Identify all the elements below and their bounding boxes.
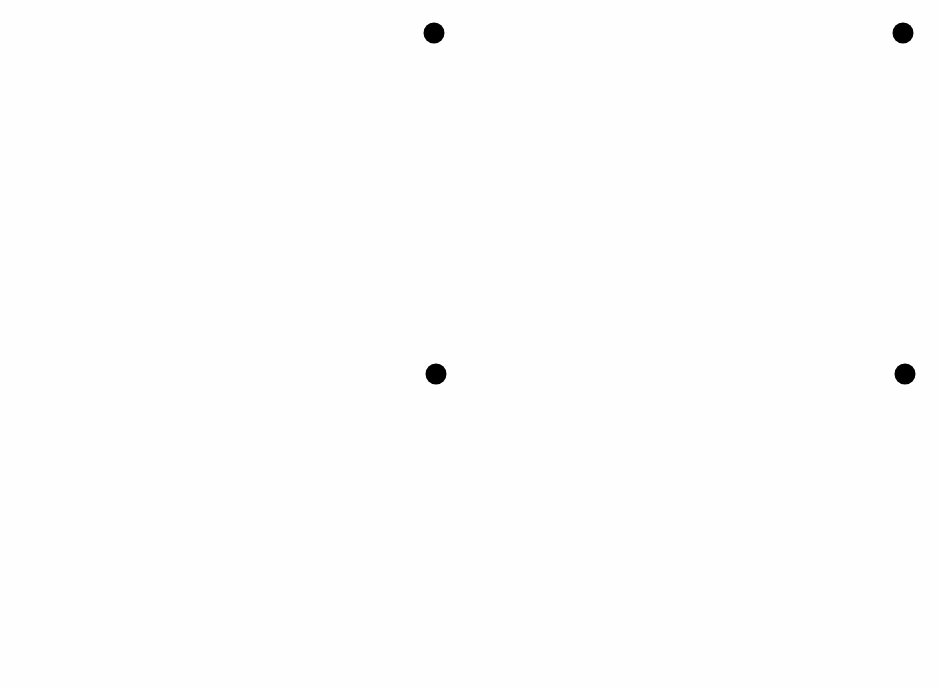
marker-dot-top-left: [424, 23, 445, 44]
marker-dot-top-right: [893, 23, 914, 44]
marker-dot-bottom-left: [426, 364, 447, 385]
blank-page-canvas: [0, 0, 939, 688]
marker-dot-bottom-right: [895, 364, 916, 385]
